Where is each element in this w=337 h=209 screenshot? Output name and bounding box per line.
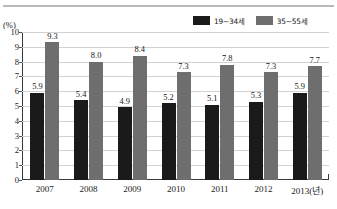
bar-group: 5.99.3 <box>23 32 67 180</box>
top-divider <box>3 5 334 7</box>
bar: 7.3 <box>264 72 278 180</box>
bar-group: 4.98.4 <box>110 32 154 180</box>
bar-value-label: 5.3 <box>251 92 261 100</box>
bar: 5.1 <box>205 105 219 180</box>
bar-groups: 5.99.35.48.04.98.45.27.35.17.85.37.35.97… <box>23 32 329 180</box>
bar: 5.9 <box>30 93 44 180</box>
bar-value-label: 5.1 <box>207 95 217 103</box>
bar: 7.7 <box>308 66 322 180</box>
bar: 9.3 <box>45 42 59 180</box>
y-axis-tick-mark <box>19 150 22 151</box>
bar-value-label: 5.4 <box>76 91 86 99</box>
x-axis-labels: 2007200820092010201120122013(년) <box>23 184 329 197</box>
bar-value-label: 9.3 <box>47 33 57 41</box>
bar: 5.4 <box>74 100 88 180</box>
bar-value-label: 5.2 <box>163 94 173 102</box>
x-axis-tick-label: 2013(년) <box>285 184 329 197</box>
y-axis-tick-mark <box>19 32 22 33</box>
bar-value-label: 7.3 <box>178 63 188 71</box>
bar: 7.3 <box>177 72 191 180</box>
bar: 4.9 <box>118 107 132 180</box>
legend-label-35-55: 35~55세 <box>277 15 308 26</box>
bar: 5.9 <box>293 93 307 180</box>
x-axis-tick-label: 2011 <box>198 184 242 197</box>
bar-value-label: 5.9 <box>294 83 304 91</box>
chart-legend: 19~34세 35~55세 <box>193 13 308 27</box>
legend-swatch-35-55 <box>256 16 273 25</box>
bar-value-label: 7.7 <box>309 57 319 65</box>
x-axis-tick-label: 2007 <box>23 184 67 197</box>
y-axis-tick-mark <box>19 180 22 181</box>
bar: 5.2 <box>162 103 176 180</box>
bar: 7.8 <box>220 65 234 180</box>
y-axis-tick-mark <box>19 121 22 122</box>
bar-value-label: 8.4 <box>135 46 145 54</box>
bar: 8.4 <box>133 56 147 180</box>
bar-value-label: 5.9 <box>32 83 42 91</box>
bar: 8.0 <box>89 62 103 180</box>
x-axis-tick-label: 2010 <box>154 184 198 197</box>
bar-value-label: 8.0 <box>91 52 101 60</box>
y-axis-tick-mark <box>19 136 22 137</box>
x-axis-tick-label: 2008 <box>67 184 111 197</box>
y-axis-tick-mark <box>19 106 22 107</box>
legend-swatch-19-34 <box>193 16 210 25</box>
legend-entry-19-34: 19~34세 <box>193 15 245 26</box>
y-axis-tick-mark <box>19 62 22 63</box>
y-axis-tick-mark <box>19 47 22 48</box>
x-axis-tick-label: 2012 <box>242 184 286 197</box>
bar-group: 5.97.7 <box>285 32 329 180</box>
y-axis-tick-mark <box>19 165 22 166</box>
bar-value-label: 4.9 <box>120 98 130 106</box>
bar-value-label: 7.8 <box>222 55 232 63</box>
y-axis-tick-label: 10 <box>10 28 19 37</box>
bar: 5.3 <box>249 102 263 180</box>
bar-group: 5.48.0 <box>67 32 111 180</box>
bar-group: 5.17.8 <box>198 32 242 180</box>
x-axis-tick-label: 2009 <box>110 184 154 197</box>
legend-entry-35-55: 35~55세 <box>256 15 308 26</box>
y-axis-tick-mark <box>19 76 22 77</box>
bar-group: 5.27.3 <box>154 32 198 180</box>
bar-group: 5.37.3 <box>242 32 286 180</box>
legend-label-19-34: 19~34세 <box>214 15 245 26</box>
y-axis-tick-mark <box>19 91 22 92</box>
bar-chart: 19~34세 35~55세 (%) 012345678910 5.99.35.4… <box>0 0 337 209</box>
plot-area: 012345678910 5.99.35.48.04.98.45.27.35.1… <box>22 32 329 180</box>
bar-value-label: 7.3 <box>266 63 276 71</box>
